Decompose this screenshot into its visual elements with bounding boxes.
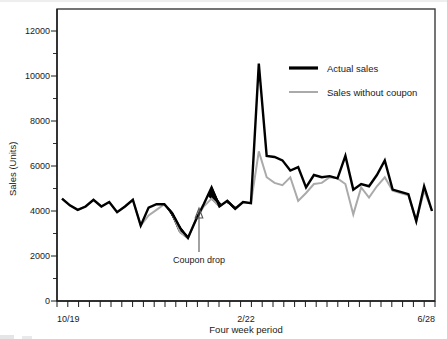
scan-edge-top xyxy=(0,0,447,2)
chart-figure: 12000 10000 8000 6000 4000 2000 0 Sales … xyxy=(0,0,447,339)
plot-frame xyxy=(57,9,435,301)
y-tick-label-2000: 2000 xyxy=(30,251,50,261)
coupon-drop-annotation: Coupon drop xyxy=(173,208,225,265)
y-tick-label-6000: 6000 xyxy=(30,161,50,171)
legend-label-sales-without-coupon: Sales without coupon xyxy=(327,87,417,98)
x-tick-label-mid: 2/22 xyxy=(237,314,255,324)
legend-label-actual-sales: Actual sales xyxy=(327,63,378,74)
x-axis-title: Four week period xyxy=(209,324,282,335)
x-tick-label-start: 10/19 xyxy=(57,314,80,324)
y-tick-label-12000: 12000 xyxy=(25,26,50,36)
scan-edge-bottom-left xyxy=(0,335,14,339)
series-line-sales-without-coupon xyxy=(62,151,432,238)
coupon-drop-label: Coupon drop xyxy=(173,255,225,265)
x-tick-label-end: 6/28 xyxy=(417,314,435,324)
y-tick-label-4000: 4000 xyxy=(30,206,50,216)
y-tick-label-0: 0 xyxy=(45,296,50,306)
y-tick-label-10000: 10000 xyxy=(25,71,50,81)
y-axis-ticks xyxy=(51,31,57,301)
incremental-sales-hatching xyxy=(167,188,235,238)
y-axis-title: Sales (Units) xyxy=(7,142,18,196)
x-axis-ticks xyxy=(57,301,435,307)
y-tick-label-8000: 8000 xyxy=(30,116,50,126)
chart-legend: Actual sales Sales without coupon xyxy=(289,63,417,98)
sales-line-chart: 12000 10000 8000 6000 4000 2000 0 Sales … xyxy=(0,0,447,339)
